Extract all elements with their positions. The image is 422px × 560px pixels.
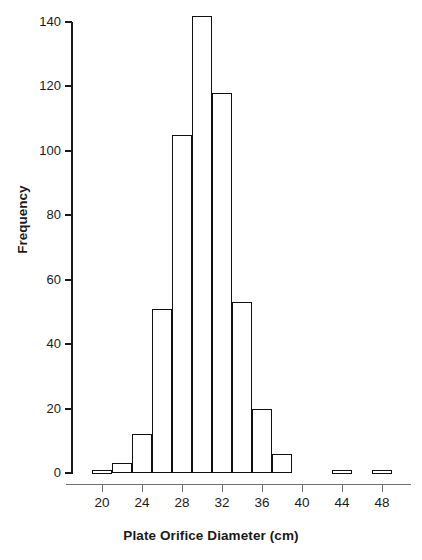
y-axis-tick bbox=[65, 279, 72, 281]
y-axis-tick-label-wrap: 0 bbox=[14, 466, 61, 479]
x-axis-tick-label: 28 bbox=[162, 495, 202, 511]
x-axis-tick bbox=[142, 485, 143, 492]
histogram-figure: Frequency 020406080100120140 20242832364… bbox=[0, 0, 422, 560]
y-axis-tick-label: 80 bbox=[17, 208, 61, 221]
histogram-bar bbox=[272, 454, 292, 473]
x-axis-tick bbox=[302, 485, 303, 492]
x-axis-tick-label: 24 bbox=[122, 495, 162, 511]
y-axis-tick-label: 40 bbox=[17, 337, 61, 350]
histogram-bar bbox=[112, 463, 132, 473]
x-axis-tick bbox=[222, 485, 223, 492]
x-axis-title: Plate Orifice Diameter (cm) bbox=[0, 528, 422, 543]
histogram-bar bbox=[212, 93, 232, 473]
x-axis-tick-label: 20 bbox=[82, 495, 122, 511]
y-axis-tick-label-wrap: 40 bbox=[14, 337, 61, 350]
y-axis-tick-label-wrap: 80 bbox=[14, 208, 61, 221]
y-axis-tick bbox=[65, 21, 72, 23]
x-axis-line bbox=[66, 484, 411, 485]
histogram-bar bbox=[132, 434, 152, 473]
x-axis-tick bbox=[262, 485, 263, 492]
y-axis-tick-label: 100 bbox=[17, 144, 61, 157]
y-axis-tick bbox=[65, 472, 72, 474]
histogram-bar bbox=[332, 470, 352, 474]
x-axis-tick-label: 48 bbox=[362, 495, 402, 511]
y-axis-tick bbox=[65, 85, 72, 87]
histogram-bar bbox=[192, 16, 212, 473]
plot-area bbox=[72, 22, 402, 473]
histogram-bar bbox=[172, 135, 192, 473]
x-axis-tick-label: 36 bbox=[242, 495, 282, 511]
histogram-bar bbox=[232, 302, 252, 473]
x-axis-tick bbox=[182, 485, 183, 492]
y-axis-tick bbox=[65, 150, 72, 152]
y-axis-tick bbox=[65, 408, 72, 410]
y-axis-tick bbox=[65, 343, 72, 345]
y-axis-tick-label-wrap: 20 bbox=[14, 402, 61, 415]
y-axis-tick-label: 120 bbox=[17, 79, 61, 92]
y-axis-tick-label: 140 bbox=[17, 15, 61, 28]
y-axis-tick-label: 0 bbox=[17, 466, 61, 479]
x-axis-tick bbox=[102, 485, 103, 492]
y-axis-tick-label-wrap: 140 bbox=[14, 15, 61, 28]
x-axis-tick-label: 40 bbox=[282, 495, 322, 511]
y-axis-tick-label-wrap: 100 bbox=[14, 144, 61, 157]
histogram-bar bbox=[372, 470, 392, 474]
x-axis-tick-label: 32 bbox=[202, 495, 242, 511]
x-axis-tick bbox=[382, 485, 383, 492]
histogram-bar bbox=[152, 309, 172, 473]
x-axis-tick-label: 44 bbox=[322, 495, 362, 511]
y-axis-tick-label: 60 bbox=[17, 273, 61, 286]
y-axis-tick-label-wrap: 120 bbox=[14, 79, 61, 92]
y-axis-tick-label: 20 bbox=[17, 402, 61, 415]
histogram-bar bbox=[92, 470, 112, 474]
x-axis-tick bbox=[342, 485, 343, 492]
y-axis-tick bbox=[65, 214, 72, 216]
y-axis-tick-label-wrap: 60 bbox=[14, 273, 61, 286]
histogram-bar bbox=[252, 409, 272, 473]
